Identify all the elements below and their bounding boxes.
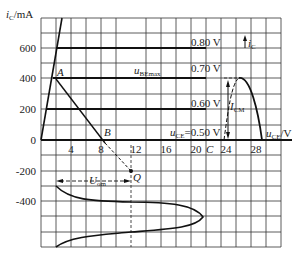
x-tick-28: 28 (251, 143, 263, 155)
y-axis-label: iC/mA (6, 8, 33, 22)
x-tick-12: 12 (131, 143, 142, 155)
x-axis-label: uCE/V (266, 127, 292, 141)
curve-label-070: 0.70 V (191, 62, 221, 74)
ube-max-label: uBEmax (134, 64, 161, 78)
y-tick-200: 200 (20, 103, 37, 115)
y-tick-0: 0 (31, 134, 37, 146)
uom-arrowhead-left (56, 179, 63, 183)
input-waveform (56, 186, 203, 247)
icm-label: ICM (229, 100, 245, 114)
x-tick-20: 20 (191, 143, 203, 155)
x-tick-24: 24 (221, 143, 233, 155)
transistor-output-characteristics-chart: 600 400 200 0 -200 -400 4 8 12 16 20 24 … (0, 0, 300, 266)
load-line-ab (56, 79, 105, 143)
y-tick-600: 600 (20, 42, 37, 54)
ic-axis-arrowhead (243, 35, 247, 41)
curve-label-050: uCE=0.50 V (170, 126, 220, 140)
curve-label-080: 0.80 V (191, 36, 221, 48)
point-q-label: Q (133, 171, 141, 183)
icm-arrowhead-bottom (226, 132, 230, 139)
curve-label-060: 0.60 V (191, 97, 221, 109)
x-tick-8: 8 (98, 143, 104, 155)
y-tick-minus-400: -400 (16, 195, 37, 207)
grid (41, 18, 281, 247)
icm-arrowhead-top (226, 80, 230, 87)
x-tick-16: 16 (161, 143, 173, 155)
uom-arrowhead-right (124, 179, 131, 183)
y-tick-400: 400 (20, 72, 37, 84)
x-tick-4: 4 (68, 143, 74, 155)
point-b-label: B (104, 126, 111, 138)
point-c-label: C (206, 143, 214, 155)
uom-label: Uom (89, 174, 106, 188)
y-tick-minus-200: -200 (16, 165, 37, 177)
characteristic-curves (46, 48, 206, 109)
ic-axis-label: iC (248, 37, 256, 51)
load-line-bq (105, 143, 131, 171)
point-a-label: A (56, 66, 64, 78)
